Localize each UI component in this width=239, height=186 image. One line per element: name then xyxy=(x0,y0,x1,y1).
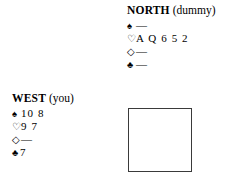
west-diamond-cards: — xyxy=(21,133,32,146)
north-diamond-cards: — xyxy=(136,45,147,58)
diamond-icon: ◇ xyxy=(127,45,136,58)
north-hand-label: NORTH (dummy) xyxy=(127,4,215,17)
club-icon: ♣ xyxy=(127,59,136,72)
west-hand-block: WEST (you) ♠ 10 8 ♡ 9 7 ◇ — ♣ 7 xyxy=(12,92,74,159)
north-spade-cards: — xyxy=(136,19,147,32)
west-seat-name: WEST xyxy=(12,92,46,104)
west-hand-label: WEST (you) xyxy=(12,92,74,105)
heart-icon: ♡ xyxy=(12,120,21,133)
north-heart-cards: A Q 6 5 2 xyxy=(136,32,189,45)
north-hand-block: NORTH (dummy) ♠ — ♡ A Q 6 5 2 ◇ — ♣ — xyxy=(127,4,215,71)
west-club-cards: 7 xyxy=(20,146,26,159)
west-heart-row: ♡ 9 7 xyxy=(12,120,74,133)
north-club-cards: — xyxy=(136,58,147,71)
west-spade-row: ♠ 10 8 xyxy=(12,107,74,120)
diamond-icon: ◇ xyxy=(12,133,21,146)
north-seat-name: NORTH xyxy=(127,4,170,16)
north-club-row: ♣ — xyxy=(127,58,215,71)
north-heart-row: ♡ A Q 6 5 2 xyxy=(127,32,215,45)
west-diamond-row: ◇ — xyxy=(12,133,74,146)
north-diamond-row: ◇ — xyxy=(127,45,215,58)
west-heart-cards: 9 7 xyxy=(21,120,38,133)
west-spade-cards: 10 8 xyxy=(21,107,45,120)
south-hand-box xyxy=(128,108,192,172)
heart-icon: ♡ xyxy=(127,32,136,45)
west-club-row: ♣ 7 xyxy=(12,146,74,159)
north-seat-role: (dummy) xyxy=(173,4,216,16)
north-spade-row: ♠ — xyxy=(127,19,215,32)
west-seat-role: (you) xyxy=(49,92,74,104)
